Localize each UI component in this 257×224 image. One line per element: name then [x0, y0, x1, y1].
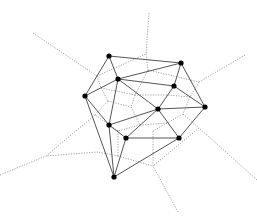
voronoi-edge: [0, 156, 46, 175]
site-point: [106, 53, 111, 58]
voronoi-edge: [98, 152, 118, 156]
site-point: [111, 174, 116, 179]
voronoi-edge: [97, 76, 101, 88]
delaunay-edge: [158, 86, 174, 109]
delaunay-voronoi-diagram: [0, 0, 257, 224]
voronoi-edge: [131, 95, 135, 107]
voronoi-edge: [183, 97, 190, 114]
voronoi-edge: [146, 54, 148, 70]
site-point: [178, 60, 183, 65]
voronoi-edge: [167, 95, 190, 97]
voronoi-edge: [183, 114, 199, 128]
voronoi-edge: [101, 88, 108, 101]
site-point: [82, 93, 87, 98]
voronoi-edges: [0, 13, 257, 212]
voronoi-edge: [108, 101, 131, 107]
delaunay-edge: [118, 63, 181, 79]
voronoi-edge: [146, 13, 149, 54]
delaunay-edge: [158, 107, 205, 109]
voronoi-edge: [95, 101, 108, 115]
delaunay-edge: [109, 109, 158, 125]
voronoi-edge: [148, 70, 199, 82]
voronoi-edge: [46, 152, 98, 156]
delaunay-edge: [174, 86, 205, 107]
voronoi-edge: [46, 115, 95, 156]
delaunay-edge: [109, 79, 118, 125]
voronoi-edge: [199, 55, 245, 82]
voronoi-edge: [153, 166, 178, 212]
voronoi-edge: [140, 123, 167, 125]
delaunay-edge: [174, 63, 181, 86]
delaunay-edges: [85, 56, 205, 177]
site-point: [115, 76, 120, 81]
voronoi-edge: [190, 82, 199, 97]
site-point: [123, 135, 128, 140]
site-point: [171, 83, 176, 88]
voronoi-edge: [153, 123, 167, 131]
site-point: [106, 122, 111, 127]
site-point: [155, 106, 160, 111]
delaunay-edge: [109, 56, 181, 63]
delaunay-edge: [181, 63, 205, 107]
delaunay-edge: [109, 125, 126, 138]
voronoi-edge: [33, 33, 97, 76]
voronoi-edge: [101, 88, 135, 95]
voronoi-edge: [167, 114, 183, 123]
site-point: [176, 135, 181, 140]
site-point: [202, 104, 207, 109]
voronoi-edge: [199, 128, 257, 180]
